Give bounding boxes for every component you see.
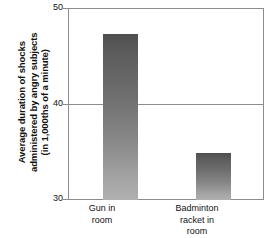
x-tick-label-gun-in-room: Gun in room [72, 203, 132, 226]
x-tick-label-badminton-racket-in-room: Badminton racket in room [164, 203, 230, 238]
gridline-40 [69, 104, 263, 105]
y-tick-label-40: 40 [23, 98, 63, 108]
x-tick-label-badminton-line-3: room [164, 226, 230, 238]
y-tick-label-50: 50 [23, 2, 63, 12]
bar-badminton-racket-in-room[interactable] [196, 153, 231, 200]
bar-chart-figure: Average duration of shocks administered … [0, 0, 271, 238]
x-tick-label-badminton-line-2: racket in [164, 215, 230, 227]
y-tick-label-30: 30 [23, 193, 63, 203]
x-tick-label-gun-in-room-line-1: Gun in [72, 203, 132, 215]
plot-area [68, 8, 264, 200]
x-tick-label-gun-in-room-line-2: room [72, 215, 132, 227]
x-tick-label-badminton-line-1: Badminton [164, 203, 230, 215]
bar-gun-in-room[interactable] [103, 34, 138, 200]
